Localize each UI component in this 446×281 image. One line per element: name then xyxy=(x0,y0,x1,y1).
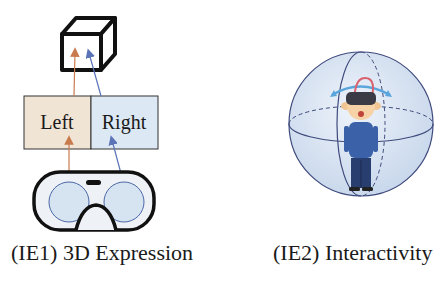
caption-ie2: (IE2) Interactivity xyxy=(273,240,432,266)
right-box-label: Right xyxy=(102,111,147,134)
diagram-canvas: Left Right xyxy=(0,0,446,281)
left-right-boxes: Left Right xyxy=(24,96,158,149)
caption-ie1: (IE1) 3D Expression xyxy=(11,240,193,266)
vr-headset-icon xyxy=(34,172,154,230)
cube-icon xyxy=(62,18,115,70)
left-box-label: Left xyxy=(40,111,74,133)
